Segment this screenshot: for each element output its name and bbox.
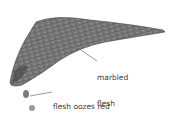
- droplet: [29, 105, 35, 111]
- droplet: [23, 90, 29, 98]
- fillet-shape: [10, 17, 165, 86]
- label-flesh-oozes: flesh oozes red droplets: [53, 86, 110, 120]
- leader-line-marbled: [78, 48, 97, 61]
- leader-line-droplets: [30, 92, 52, 96]
